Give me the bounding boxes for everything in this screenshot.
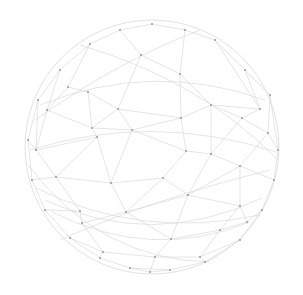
sphere-node — [55, 176, 57, 178]
sphere-node — [187, 194, 189, 196]
sphere-node — [117, 108, 119, 110]
sphere-edge — [163, 151, 186, 178]
sphere-node — [110, 182, 112, 184]
sphere-node — [59, 69, 61, 71]
sphere-edge — [120, 30, 141, 55]
sphere-arc — [80, 45, 278, 160]
sphere-edge — [28, 140, 32, 180]
sphere-edge — [152, 24, 185, 30]
sphere-node — [46, 109, 48, 111]
sphere-edge — [88, 92, 92, 128]
sphere-edge — [80, 211, 82, 223]
sphere-edge — [111, 178, 163, 183]
sphere-edge — [200, 257, 205, 262]
sphere-arc — [35, 30, 200, 120]
sphere-node — [151, 23, 153, 25]
sphere-node — [31, 179, 33, 181]
sphere-edge — [240, 210, 262, 240]
sphere-edge — [36, 137, 97, 150]
sphere-edge — [32, 180, 45, 210]
sphere-edge — [88, 92, 118, 109]
sphere-node — [184, 29, 186, 31]
sphere-node — [239, 239, 241, 241]
sphere-edge — [155, 239, 171, 257]
sphere-edge — [47, 87, 68, 110]
sphere-node — [129, 267, 131, 269]
sphere-edge — [211, 118, 242, 154]
sphere-node — [87, 91, 89, 93]
sphere-node — [81, 222, 83, 224]
sphere-edge — [215, 40, 245, 70]
sphere-node — [239, 165, 241, 167]
sphere-node — [37, 99, 39, 101]
sphere-node — [91, 127, 93, 129]
sphere-node — [35, 149, 37, 151]
sphere-edge — [45, 210, 70, 238]
sphere-node — [96, 136, 98, 138]
sphere-node — [277, 149, 279, 151]
sphere-node — [162, 177, 164, 179]
sphere-edge — [92, 128, 132, 130]
sphere-node — [99, 257, 101, 259]
sphere-edge — [111, 130, 132, 183]
sphere-edge — [92, 109, 118, 128]
sphere-node — [131, 129, 133, 131]
sphere-edge — [56, 177, 111, 183]
sphere-edge — [36, 150, 56, 177]
sphere-arc — [45, 198, 262, 225]
sphere-node — [170, 238, 172, 240]
sphere-edge — [100, 258, 130, 268]
sphere-edge — [220, 206, 240, 230]
sphere-node — [180, 117, 182, 119]
sphere-edge — [242, 109, 260, 118]
sphere-node — [140, 54, 142, 56]
sphere-node — [119, 29, 121, 31]
sphere-edge — [150, 257, 155, 272]
sphere-node — [267, 132, 269, 134]
sphere-edge — [45, 210, 80, 211]
sphere-arcs — [28, 30, 278, 262]
sphere-node — [239, 205, 241, 207]
sphere-node — [102, 251, 104, 253]
sphere-arc — [30, 131, 276, 152]
sphere-node — [27, 139, 29, 141]
sphere-edge — [180, 74, 181, 118]
sphere-edge — [181, 105, 211, 118]
wireframe-sphere-svg — [0, 0, 303, 295]
sphere-edge — [103, 252, 155, 257]
sphere-node — [241, 117, 243, 119]
sphere-edge — [90, 30, 120, 44]
sphere-node — [125, 211, 127, 213]
sphere-edge — [141, 55, 180, 74]
sphere-node — [79, 210, 81, 212]
sphere-edge — [150, 270, 170, 272]
sphere-edge — [171, 195, 188, 239]
sphere-node — [219, 229, 221, 231]
sphere-node — [259, 108, 261, 110]
sphere-node — [169, 269, 171, 271]
sphere-edge — [240, 133, 268, 166]
sphere-node — [154, 256, 156, 258]
sphere-edge — [118, 109, 181, 118]
sphere-edge — [211, 154, 240, 166]
sphere-edge — [126, 212, 171, 239]
sphere-node — [44, 209, 46, 211]
sphere-edge — [56, 177, 80, 211]
sphere-edge — [215, 40, 260, 109]
sphere-node — [214, 39, 216, 41]
sphere-arc — [52, 212, 250, 240]
sphere-edge — [100, 252, 103, 258]
sphere-edge — [186, 151, 211, 154]
sphere-edge — [120, 24, 152, 30]
sphere-node — [185, 150, 187, 152]
sphere-edge — [268, 95, 270, 133]
sphere-edge — [56, 137, 97, 177]
sphere-node — [269, 94, 271, 96]
sphere-node — [210, 153, 212, 155]
sphere-node — [69, 237, 71, 239]
sphere-edge — [180, 74, 211, 105]
sphere-edge — [240, 206, 247, 222]
sphere-edge — [171, 230, 220, 239]
sphere-arc — [60, 170, 270, 240]
sphere-edge — [32, 177, 56, 180]
